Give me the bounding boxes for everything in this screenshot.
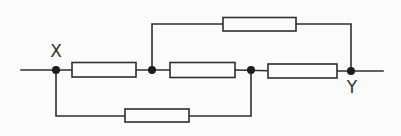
resistor-main-3 — [268, 64, 337, 78]
resistor-main-2 — [170, 63, 235, 78]
circuit-diagram: XY — [0, 0, 401, 136]
resistor-top-branch — [223, 18, 296, 32]
junction-dot-node-A — [148, 66, 156, 74]
circuit-figure: XY — [0, 0, 401, 136]
terminal-label-X: X — [50, 41, 62, 61]
junction-dot-node-Y — [347, 67, 355, 75]
junction-dot-node-B — [247, 66, 255, 74]
terminal-label-Y: Y — [346, 77, 358, 97]
junction-dot-node-X — [52, 66, 60, 74]
resistor-main-1 — [72, 63, 136, 78]
resistor-bottom-branch — [125, 109, 189, 122]
